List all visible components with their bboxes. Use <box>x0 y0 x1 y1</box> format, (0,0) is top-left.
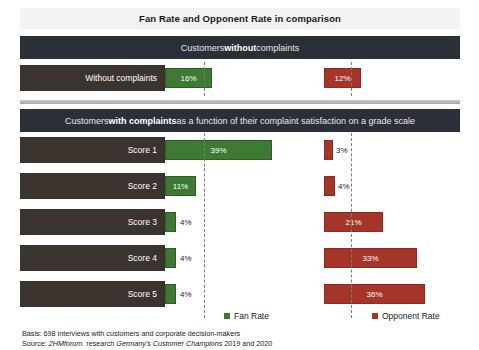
footer-notes: Basis: 698 interviews with customers and… <box>22 329 462 348</box>
bar-value-opponent-without-complaints: 12% <box>334 74 350 83</box>
section-header-without-suffix: complaints <box>256 43 299 53</box>
bar-value-opponent-score-3: 21% <box>345 218 361 227</box>
bar-value-opponent-score-5: 36% <box>366 290 382 299</box>
row-label-score-2: Score 2 <box>20 173 165 199</box>
section-header-without-complaints: Customers without complaints <box>20 36 460 59</box>
row-label-score-5: Score 5 <box>20 281 165 307</box>
row-label-score-1: Score 1 <box>20 137 165 163</box>
row-label-score-4: Score 4 <box>20 245 165 271</box>
bar-fan-score-5[interactable] <box>165 284 176 304</box>
bar-fan-score-2[interactable]: 11% <box>165 176 196 196</box>
bar-fan-score-1[interactable]: 39% <box>165 140 272 160</box>
table-row: Score 1 39% 3% <box>20 137 460 163</box>
footer-source-mid: research <box>84 339 116 348</box>
bar-opponent-without-complaints[interactable]: 12% <box>324 68 361 88</box>
section-header-with-suffix: as a function of their complaint satisfa… <box>176 116 415 126</box>
bar-value-fan-score-2: 11% <box>173 182 188 191</box>
bar-opponent-score-1[interactable] <box>324 140 333 160</box>
reference-line-fan-lower <box>204 133 205 318</box>
legend-label-opponent-rate: Opponent Rate <box>382 311 440 321</box>
bar-value-opponent-score-1: 3% <box>336 140 348 160</box>
table-row: Score 2 11% 4% <box>20 173 460 199</box>
bar-opponent-score-3[interactable]: 21% <box>324 212 383 232</box>
reference-line-opponent-upper <box>351 62 352 96</box>
bar-opponent-score-5[interactable]: 36% <box>324 284 425 304</box>
footer-source-brand: 2HMforum. <box>49 339 85 348</box>
footer-source-study: Germany's Customer Champions <box>116 339 222 348</box>
section-header-with-complaints: Customers with complaints as a function … <box>20 109 460 132</box>
bar-value-fan-score-5: 4% <box>180 284 192 304</box>
reference-line-fan-upper <box>204 62 205 96</box>
bar-value-opponent-score-2: 4% <box>338 176 350 196</box>
footer-source: Source: 2HMforum. research Germany's Cus… <box>22 339 462 349</box>
bar-fan-score-3[interactable] <box>165 212 176 232</box>
chart-title-bar: Fan Rate and Opponent Rate in comparison <box>20 8 460 29</box>
legend-label-fan-rate: Fan Rate <box>234 311 269 321</box>
footer-source-prefix: Source: <box>22 339 49 348</box>
bar-opponent-score-4[interactable]: 33% <box>324 248 417 268</box>
bar-value-fan-score-1: 39% <box>210 146 226 155</box>
bar-value-fan-without-complaints: 16% <box>180 74 196 83</box>
legend-swatch-opponent-icon <box>372 313 378 319</box>
bar-value-opponent-score-4: 33% <box>362 254 378 263</box>
section-header-without-emphasis: without <box>224 43 256 53</box>
slide-canvas: Fan Rate and Opponent Rate in comparison… <box>0 0 479 350</box>
legend-item-opponent-rate[interactable]: Opponent Rate <box>372 311 440 321</box>
section-header-with-emphasis: with complaints <box>108 116 176 126</box>
table-row: Without complaints 16% 12% <box>20 65 460 91</box>
legend-swatch-fan-icon <box>224 313 230 319</box>
section-header-with-prefix: Customers <box>65 116 109 126</box>
bar-value-fan-score-3: 4% <box>180 212 192 232</box>
page-title: Fan Rate and Opponent Rate in comparison <box>139 13 341 24</box>
section-header-without-prefix: Customers <box>181 43 225 53</box>
row-label-without-complaints: Without complaints <box>20 65 165 91</box>
bar-value-fan-score-4: 4% <box>180 248 192 268</box>
bar-opponent-score-2[interactable] <box>324 176 335 196</box>
table-row: Score 4 4% 33% <box>20 245 460 271</box>
reference-line-opponent-lower <box>351 133 352 318</box>
row-label-score-3: Score 3 <box>20 209 165 235</box>
footer-source-years: 2019 and 2020 <box>222 339 272 348</box>
legend-item-fan-rate[interactable]: Fan Rate <box>224 311 269 321</box>
table-row: Score 5 4% 36% <box>20 281 460 307</box>
section-divider <box>20 100 460 104</box>
table-row: Score 3 4% 21% <box>20 209 460 235</box>
bar-fan-score-4[interactable] <box>165 248 176 268</box>
footer-basis: Basis: 698 interviews with customers and… <box>22 329 462 339</box>
